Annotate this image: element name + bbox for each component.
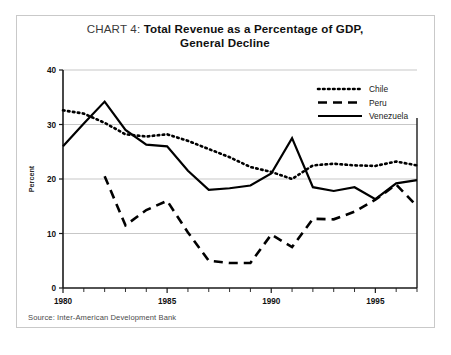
legend-label-chile: Chile xyxy=(369,84,388,94)
y-tick-label-40: 40 xyxy=(47,66,57,75)
x-tick-label-1985: 1985 xyxy=(158,297,177,306)
y-tick-label-30: 30 xyxy=(47,121,57,130)
y-tick-label-20: 20 xyxy=(47,175,57,184)
series-line-peru xyxy=(105,176,417,263)
series-line-chile xyxy=(63,110,417,179)
chart-figure: CHART 4: Total Revenue as a Percentage o… xyxy=(0,0,451,355)
y-axis-title: Percent xyxy=(27,165,36,192)
legend-label-venezuela: Venezuela xyxy=(369,111,408,121)
y-tick-label-10: 10 xyxy=(47,230,57,239)
series-line-venezuela xyxy=(63,102,417,200)
legend-label-peru: Peru xyxy=(369,98,387,108)
chart-plot: 0102030401980198519901995PercentChilePer… xyxy=(0,0,451,355)
x-tick-label-1995: 1995 xyxy=(366,297,385,306)
source-note: Source: Inter-American Development Bank xyxy=(28,313,176,322)
y-tick-label-0: 0 xyxy=(51,284,56,293)
x-tick-label-1980: 1980 xyxy=(54,297,73,306)
x-tick-label-1990: 1990 xyxy=(262,297,281,306)
